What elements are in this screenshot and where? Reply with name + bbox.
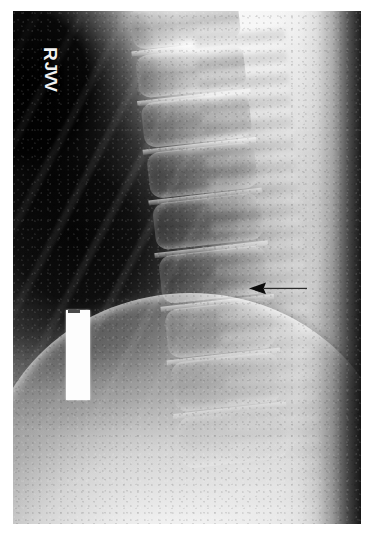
- radiograph-viewer: R JVV: [0, 0, 373, 546]
- side-marker-letter: R: [42, 47, 61, 61]
- radiograph-image: R JVV: [13, 11, 361, 524]
- arrow-icon: [249, 280, 307, 296]
- side-marker: R JVV: [19, 47, 83, 91]
- technologist-initials: JVV: [43, 62, 60, 91]
- label-cap: [68, 310, 80, 313]
- film-border-bottom: [0, 524, 373, 546]
- patient-id-label: [66, 310, 90, 400]
- film-border-top: [0, 0, 373, 11]
- film-border-right: [361, 0, 373, 546]
- film-border-left: [0, 0, 13, 546]
- pointer-arrow: [249, 280, 307, 296]
